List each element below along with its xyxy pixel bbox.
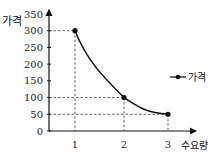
y-tick-label: 250 [24,42,43,53]
y-tick-label: 50 [30,109,43,120]
legend-line-marker-icon [170,73,186,81]
demand-curve [75,31,168,115]
legend: 가격 [170,69,206,84]
y-axis-label: 가격 [2,12,22,28]
y-tick-label: 300 [24,25,43,36]
y-tick-label: 100 [24,92,43,103]
y-tick-label: 0 [37,126,43,137]
legend-label: 가격 [188,69,206,84]
y-tick-label: 350 [24,9,43,20]
x-tick-label: 1 [72,139,78,150]
x-axis-label: 수요량 [181,137,208,152]
data-point [121,95,126,100]
y-tick-label: 200 [24,59,43,70]
y-tick-label: 150 [24,75,43,86]
x-tick-label: 2 [121,139,127,150]
data-point [72,28,77,33]
data-point [165,112,170,117]
x-ticks: 123 [72,139,171,150]
data-points [72,28,170,117]
y-ticks: 050100150200250300350 [24,9,51,137]
x-tick-label: 3 [165,139,171,150]
